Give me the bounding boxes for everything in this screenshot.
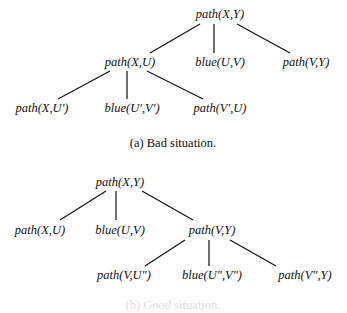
tree-node: blue(U″,V″) [182,268,242,283]
tree-edge [150,24,200,53]
tree-node: path(X,U) [105,55,155,70]
tree-edge [58,71,110,99]
tree-edge [145,240,185,266]
tree-node: path(V,Y) [283,55,330,70]
tree-node: path(X,Y) [196,7,244,22]
tree-node: path(V,Y) [189,223,236,238]
tree-node: blue(U,V) [195,55,245,70]
tree-node: path(X,Y) [96,175,144,190]
tree-edge [230,240,276,266]
tree-node: path(V′,U) [193,101,246,116]
tree-node: blue(U′,V′) [104,101,159,116]
tree-edge [237,24,290,53]
tree-edge [147,71,203,99]
tree-node: path(X,U′) [15,101,68,116]
tree-edge [60,191,106,220]
caption-b: (b) Good situation. [126,298,221,313]
caption-a: (a) Bad situation. [130,136,216,151]
tree-node: path(V,U″) [97,268,151,283]
tree-node: blue(U,V) [95,223,145,238]
tree-node: path(X,U) [15,223,65,238]
tree-node: path(V″,Y) [278,268,331,283]
tree-edge [142,191,193,220]
